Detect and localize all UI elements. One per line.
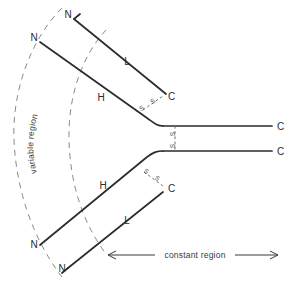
label-light-chain-upper: L	[124, 56, 130, 67]
antibody-diagram-figure: N N N N C C C C L H H L S S S S S S vari…	[0, 0, 294, 286]
label-disulfide-lower-s1: S	[143, 167, 151, 176]
light-chain-upper	[74, 19, 166, 94]
label-c-terminus-heavy-lower: C	[277, 146, 284, 157]
heavy-chain-lower-variable	[40, 151, 163, 245]
label-c-terminus-light-upper: C	[168, 91, 175, 102]
light-chain-lower	[68, 192, 163, 268]
label-light-chain-lower: L	[124, 215, 130, 226]
label-n-terminus-lower-inner: N	[30, 239, 37, 250]
label-disulfide-hinge-s2: S	[169, 143, 176, 148]
label-variable-region-text: variable region	[25, 112, 40, 174]
variable-region-outer-arc	[14, 8, 62, 277]
label-disulfide-hinge-s1: S	[169, 131, 176, 136]
variable-region-inner-arc	[69, 30, 106, 254]
label-n-terminus-upper-inner: N	[30, 32, 37, 43]
antibody-diagram-canvas: N N N N C C C C L H H L S S S S S S vari…	[0, 0, 294, 286]
label-n-terminus-lower-outer: N	[58, 263, 65, 274]
label-c-terminus-light-lower: C	[168, 183, 175, 194]
n-terminus-tick-upper-outer	[74, 14, 80, 19]
label-n-terminus-upper-outer: N	[64, 9, 71, 20]
label-disulfide-upper-s1: S	[138, 103, 146, 112]
label-disulfide-lower-s2: S	[154, 174, 162, 183]
label-heavy-chain-upper: H	[97, 92, 104, 103]
heavy-chain-upper-variable	[40, 42, 163, 126]
label-heavy-chain-lower: H	[99, 180, 106, 191]
label-constant-region: constant region	[164, 250, 225, 260]
label-c-terminus-heavy-upper: C	[277, 121, 284, 132]
label-variable-region: variable region	[25, 112, 40, 174]
